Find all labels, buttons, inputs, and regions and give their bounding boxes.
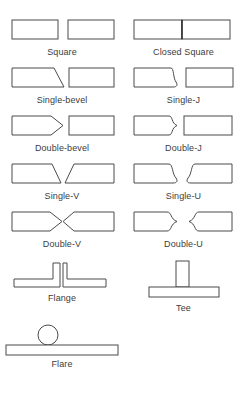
figure-caption: Tee bbox=[176, 303, 191, 314]
figure-cell-flare: Flare bbox=[0, 322, 124, 370]
right-plate-beveled bbox=[65, 164, 114, 183]
diagram-row: Square Closed Square bbox=[0, 14, 243, 58]
figure-cell-double-u: Double-U bbox=[124, 208, 243, 250]
figure-caption: Double-bevel bbox=[35, 143, 89, 154]
single-v-figure bbox=[6, 160, 118, 188]
square-butt-figure bbox=[6, 14, 118, 44]
left-plate-j-groove bbox=[134, 68, 177, 87]
figure-caption: Double-J bbox=[165, 143, 202, 154]
figure-cell-flange: Flange bbox=[0, 258, 124, 314]
figure-cell-single-j: Single-J bbox=[124, 64, 243, 106]
left-plate-beveled bbox=[12, 164, 61, 183]
figure-cell-tee: Tee bbox=[124, 258, 243, 314]
figure-cell-square: Square bbox=[0, 14, 124, 58]
figure-caption: Square bbox=[47, 47, 77, 58]
right-plate bbox=[184, 116, 232, 135]
left-plate bbox=[12, 20, 58, 39]
left-plate-double-j-groove bbox=[134, 116, 177, 135]
double-bevel-figure bbox=[6, 112, 118, 140]
figure-cell-double-bevel: Double-bevel bbox=[0, 112, 124, 154]
diagram-row: Flange Tee bbox=[0, 258, 243, 314]
closed-square-butt-figure bbox=[129, 14, 239, 44]
figure-cell-single-v: Single-V bbox=[0, 160, 124, 202]
diagram-row: Single-bevel Single-J bbox=[0, 64, 243, 106]
tee-figure bbox=[129, 258, 239, 302]
figure-caption: Flange bbox=[48, 293, 76, 304]
right-plate-u-groove bbox=[187, 164, 232, 183]
figure-caption: Closed Square bbox=[153, 47, 214, 58]
figure-caption: Single-U bbox=[166, 191, 201, 202]
figure-caption: Double-V bbox=[43, 239, 81, 250]
horizontal-base-plate bbox=[149, 287, 219, 297]
right-plate bbox=[186, 68, 233, 87]
left-plate-double-beveled bbox=[12, 212, 62, 231]
figure-cell-double-j: Double-J bbox=[124, 112, 243, 154]
left-plate-double-beveled bbox=[12, 116, 63, 135]
right-plate bbox=[182, 20, 230, 39]
left-plate-beveled bbox=[12, 68, 64, 87]
left-plate-u-groove bbox=[134, 164, 177, 183]
double-v-figure bbox=[6, 208, 118, 236]
figure-cell-double-v: Double-V bbox=[0, 208, 124, 250]
right-plate-double-u-groove bbox=[189, 212, 232, 231]
right-flange-plate bbox=[63, 263, 106, 287]
right-plate-double-beveled bbox=[63, 212, 114, 231]
figure-caption: Flare bbox=[51, 359, 72, 370]
figure-cell-empty bbox=[124, 322, 243, 370]
figure-caption: Single-bevel bbox=[37, 95, 88, 106]
diagram-row: Single-V Single-U bbox=[0, 160, 243, 202]
figure-caption: Single-V bbox=[45, 191, 80, 202]
diagram-row: Flare bbox=[0, 322, 243, 370]
flare-figure bbox=[0, 322, 127, 358]
figure-caption: Double-U bbox=[164, 239, 203, 250]
vertical-web-plate bbox=[176, 261, 189, 287]
left-plate-double-u-groove bbox=[134, 212, 177, 231]
flange-figure bbox=[6, 258, 118, 292]
single-u-figure bbox=[129, 160, 239, 188]
diagram-row: Double-bevel Double-J bbox=[0, 112, 243, 154]
right-plate bbox=[69, 116, 114, 135]
flat-plate bbox=[6, 345, 118, 355]
diagram-row: Double-V Double-U bbox=[0, 208, 243, 250]
double-j-figure bbox=[129, 112, 239, 140]
left-flange-plate bbox=[14, 263, 60, 287]
figure-cell-single-u: Single-U bbox=[124, 160, 243, 202]
figure-cell-closed-square: Closed Square bbox=[124, 14, 243, 58]
right-plate bbox=[68, 20, 114, 39]
left-plate bbox=[134, 20, 182, 39]
round-bar bbox=[38, 325, 58, 345]
double-u-figure bbox=[129, 208, 239, 236]
single-j-figure bbox=[129, 64, 239, 92]
weld-joint-diagram-sheet: Square Closed Square Single-bevel bbox=[0, 14, 243, 404]
figure-caption: Single-J bbox=[167, 95, 200, 106]
single-bevel-figure bbox=[6, 64, 118, 92]
figure-cell-single-bevel: Single-bevel bbox=[0, 64, 124, 106]
right-plate bbox=[69, 68, 114, 87]
